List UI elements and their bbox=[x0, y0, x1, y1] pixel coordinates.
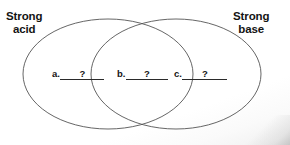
blank-a-answer[interactable]: ? bbox=[60, 68, 104, 80]
left-set-label-line2: acid bbox=[6, 23, 42, 36]
blank-a[interactable]: a. ? bbox=[52, 68, 104, 80]
blank-a-key: a. bbox=[52, 69, 60, 79]
right-set-label-line1: Strong bbox=[233, 10, 269, 23]
left-set-label-line1: Strong bbox=[6, 10, 42, 23]
venn-diagram-worksheet: Strong acid Strong base a. ? b. ? c. ? bbox=[0, 0, 290, 145]
left-set-label: Strong acid bbox=[6, 10, 42, 35]
blank-c[interactable]: c. ? bbox=[174, 68, 227, 80]
blank-c-answer[interactable]: ? bbox=[182, 68, 227, 80]
blank-b[interactable]: b. ? bbox=[117, 68, 168, 80]
blank-b-answer[interactable]: ? bbox=[126, 68, 168, 80]
right-set-label-line2: base bbox=[233, 23, 269, 36]
right-set-label: Strong base bbox=[233, 10, 269, 35]
blank-b-key: b. bbox=[117, 69, 125, 79]
blank-c-key: c. bbox=[174, 69, 182, 79]
